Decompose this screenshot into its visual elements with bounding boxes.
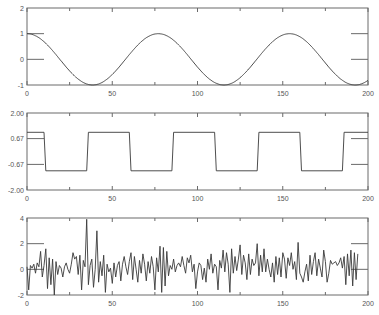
y-tick-label: -0.67 (8, 161, 24, 168)
x-tick-label: 50 (108, 300, 116, 307)
x-tick-label: 200 (362, 90, 374, 97)
noise-panel: 050100150200-2024 (18, 215, 374, 308)
y-tick-label: 2.00 (10, 110, 24, 117)
y-tick-label: 0.67 (10, 135, 24, 142)
y-tick-label: -2.00 (8, 187, 24, 194)
y-tick-label: 1 (20, 30, 24, 37)
y-tick-label: -1 (18, 82, 24, 89)
axes-frame (27, 8, 368, 85)
axes-frame (27, 218, 368, 295)
y-tick-label: 2 (20, 5, 24, 12)
x-tick-label: 0 (25, 90, 29, 97)
x-tick-label: 100 (192, 90, 204, 97)
y-tick-label: 0 (20, 266, 24, 273)
x-tick-label: 200 (362, 300, 374, 307)
y-tick-label: -2 (18, 292, 24, 299)
x-tick-label: 200 (362, 195, 374, 202)
square-panel: 050100150200-2.00-0.670.672.00 (8, 110, 374, 203)
cosine-line (27, 34, 368, 85)
x-tick-label: 0 (25, 300, 29, 307)
x-tick-label: 100 (192, 195, 204, 202)
axes-frame (27, 113, 368, 190)
noise-line (27, 219, 358, 295)
x-tick-label: 100 (192, 300, 204, 307)
x-tick-label: 150 (277, 195, 289, 202)
x-tick-label: 150 (277, 300, 289, 307)
x-tick-label: 50 (108, 90, 116, 97)
x-tick-label: 0 (25, 195, 29, 202)
x-tick-label: 50 (108, 195, 116, 202)
figure-canvas: 050100150200-1012050100150200-2.00-0.670… (0, 0, 379, 315)
y-tick-label: 4 (20, 215, 24, 222)
sine-panel: 050100150200-1012 (18, 5, 374, 98)
y-tick-label: 0 (20, 56, 24, 63)
x-tick-label: 150 (277, 90, 289, 97)
square-line (27, 132, 368, 171)
y-tick-label: 2 (20, 240, 24, 247)
